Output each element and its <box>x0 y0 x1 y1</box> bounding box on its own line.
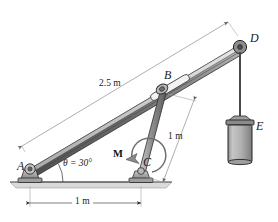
dimension-label-base: 1 m <box>72 196 93 206</box>
point-label-d: D <box>250 31 259 46</box>
mechanics-diagram: A B C D E 2.5 m 1 m 1 m θ = 30° M <box>0 0 278 222</box>
pulley-d <box>233 40 246 53</box>
dimension-label-boom: 2.5 m <box>99 78 121 88</box>
point-label-b: B <box>164 68 171 83</box>
suspended-weight-e <box>226 116 254 165</box>
diagram-canvas <box>0 0 278 222</box>
dimension-line-boom <box>22 22 238 152</box>
moment-label: M <box>113 148 123 159</box>
dimension-label-strut: 1 m <box>168 131 183 141</box>
point-label-a: A <box>17 159 24 174</box>
point-label-c: C <box>143 155 151 170</box>
point-label-e: E <box>256 119 263 134</box>
angle-label: θ = 30° <box>63 158 92 168</box>
